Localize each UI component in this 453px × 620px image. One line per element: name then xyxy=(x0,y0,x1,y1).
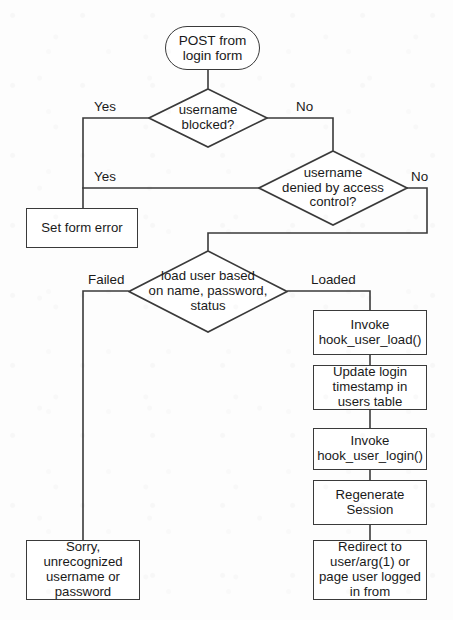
edge-load-loaded xyxy=(288,291,370,310)
edge-label-blocked-no: No xyxy=(296,99,313,114)
node-set-form-error: Set form error xyxy=(26,208,138,248)
node-invoke-hook-user-login-text: Invoke hook_user_login() xyxy=(317,434,423,464)
diamond-shape-load xyxy=(128,250,288,333)
edge-label-load-loaded: Loaded xyxy=(311,272,356,287)
node-invoke-hook-user-login: Invoke hook_user_login() xyxy=(313,428,427,470)
node-invoke-hook-user-load: Invoke hook_user_load() xyxy=(313,310,427,355)
edge-label-blocked-yes: Yes xyxy=(94,99,116,114)
error-message-line-2: unrecognized xyxy=(43,555,122,570)
redirect-line-4: in from xyxy=(319,585,421,600)
edge-label-access-yes: Yes xyxy=(94,169,116,184)
redirect-line-2: user/arg(1) or xyxy=(319,555,421,570)
hook-user-login-line-2: hook_user_login() xyxy=(317,449,423,464)
error-message-line-1: Sorry, xyxy=(43,540,122,555)
node-decision-load-user: load user based on name, password, statu… xyxy=(128,250,288,333)
node-error-message: Sorry, unrecognized username or password xyxy=(26,540,140,600)
error-message-line-3: username or xyxy=(43,570,122,585)
node-redirect: Redirect to user/arg(1) or page user log… xyxy=(313,540,427,600)
hook-user-load-line-1: Invoke xyxy=(319,318,422,333)
hook-user-load-line-2: hook_user_load() xyxy=(319,333,422,348)
node-regenerate-session-text: Regenerate Session xyxy=(336,488,405,518)
diamond-shape-access xyxy=(258,150,408,226)
diamond-shape-blocked xyxy=(148,88,268,148)
node-regenerate-session: Regenerate Session xyxy=(313,480,427,525)
set-form-error-line-1: Set form error xyxy=(41,221,122,236)
redirect-line-3: page user logged xyxy=(319,570,421,585)
node-start-text: POST from login form xyxy=(179,33,247,63)
node-decision-username-blocked: username blocked? xyxy=(148,88,268,148)
edge-label-load-failed: Failed xyxy=(88,272,124,287)
update-timestamp-line-2: timestamp in xyxy=(333,380,408,395)
flowchart-canvas: POST from login form username blocked? u… xyxy=(0,0,453,620)
update-timestamp-line-3: users table xyxy=(333,395,408,410)
node-update-login-timestamp: Update login timestamp in users table xyxy=(313,365,427,410)
node-invoke-hook-user-load-text: Invoke hook_user_load() xyxy=(319,318,422,348)
node-start-line-1: POST from xyxy=(179,33,247,48)
edge-blocked-yes xyxy=(83,118,148,208)
redirect-line-1: Redirect to xyxy=(319,540,421,555)
node-update-login-timestamp-text: Update login timestamp in users table xyxy=(333,365,408,409)
update-timestamp-line-1: Update login xyxy=(333,365,408,380)
node-decision-access-control: username denied by access control? xyxy=(258,150,408,226)
error-message-line-4: password xyxy=(43,585,122,600)
edge-blocked-no xyxy=(268,118,333,150)
edge-label-access-no: No xyxy=(411,169,428,184)
node-start: POST from login form xyxy=(165,26,260,70)
node-error-message-text: Sorry, unrecognized username or password xyxy=(43,540,122,599)
edge-load-failed xyxy=(83,291,128,540)
regenerate-session-line-1: Regenerate xyxy=(336,488,405,503)
regenerate-session-line-2: Session xyxy=(336,503,405,518)
node-redirect-text: Redirect to user/arg(1) or page user log… xyxy=(319,540,421,599)
node-start-line-2: login form xyxy=(179,48,247,63)
node-set-form-error-text: Set form error xyxy=(41,221,122,236)
hook-user-login-line-1: Invoke xyxy=(317,434,423,449)
